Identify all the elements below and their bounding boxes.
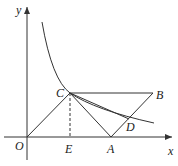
segment-CD — [70, 93, 129, 119]
label-x: x — [167, 144, 174, 158]
label-B: B — [156, 88, 164, 102]
label-D: D — [125, 120, 135, 134]
label-C: C — [56, 86, 65, 100]
label-y: y — [15, 3, 22, 17]
label-O: O — [15, 139, 24, 153]
label-E: E — [64, 142, 73, 156]
hyperbola-curve — [42, 22, 154, 123]
geometry-diagram: y x O C B D E A — [0, 0, 178, 166]
segment-CA — [70, 93, 111, 137]
label-A: A — [106, 142, 115, 156]
